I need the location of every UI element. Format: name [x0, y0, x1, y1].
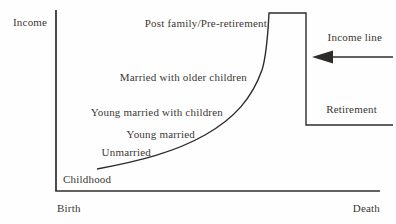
- income-line-annotation-label: Income line: [328, 31, 382, 43]
- stage-label-retirement: Retirement: [326, 103, 377, 115]
- x-axis-right-label: Death: [353, 202, 380, 214]
- left-arrowhead-icon: [312, 51, 333, 64]
- stage-label-married-with-older-children: Married with older children: [120, 71, 247, 83]
- life-cycle-income-figure: Income Post family/Pre-retirement Marrie…: [0, 0, 396, 224]
- x-axis-left-label: Birth: [57, 202, 81, 214]
- stage-label-unmarried: Unmarried: [102, 146, 151, 158]
- stage-label-young-married-with-children: Young married with children: [91, 106, 223, 118]
- stage-label-post-family-pre-retirement: Post family/Pre-retirement: [145, 17, 267, 29]
- y-axis-label: Income: [13, 16, 47, 28]
- income-line-arrow: [312, 51, 393, 64]
- stage-label-young-married: Young married: [127, 128, 195, 140]
- stage-label-childhood: Childhood: [63, 173, 111, 185]
